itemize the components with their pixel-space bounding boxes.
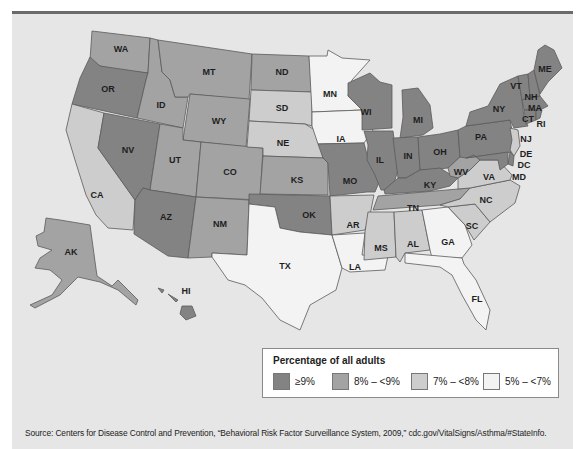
state-FL[interactable] [405, 253, 490, 330]
label-OK: OK [302, 210, 316, 220]
source-citation: Source: Centers for Disease Control and … [25, 428, 547, 438]
label-NJ: NJ [520, 134, 532, 144]
label-PA: PA [475, 132, 487, 142]
state-AZ[interactable] [134, 188, 196, 258]
label-HI: HI [182, 286, 191, 296]
label-NH: NH [525, 92, 538, 102]
label-WY: WY [212, 116, 227, 126]
legend-item-8-9: 8% – <9% [332, 373, 400, 390]
state-NJ[interactable] [510, 128, 520, 156]
legend-item-9plus: ≥9% [273, 373, 315, 390]
label-NM: NM [213, 219, 227, 229]
label-FL: FL [472, 294, 483, 304]
legend-swatch [483, 373, 500, 390]
state-AK[interactable] [30, 218, 138, 308]
legend-item-5-7: 5% – <7% [483, 373, 551, 390]
legend: Percentage of all adults ≥9% 8% – <9% 7%… [262, 348, 559, 398]
label-TN: TN [407, 203, 419, 213]
legend-item-7-8: 7% – <8% [411, 373, 479, 390]
label-CO: CO [223, 167, 237, 177]
legend-swatch [332, 373, 349, 390]
label-MA: MA [528, 103, 542, 113]
legend-label: 7% – <8% [433, 376, 479, 387]
label-MD: MD [512, 172, 526, 182]
label-ID: ID [157, 100, 167, 110]
label-SC: SC [466, 221, 479, 231]
label-DC: DC [518, 160, 531, 170]
label-OR: OR [101, 84, 115, 94]
label-IL: IL [376, 155, 385, 165]
label-MS: MS [374, 243, 388, 253]
label-VA: VA [483, 172, 495, 182]
label-AR: AR [347, 220, 360, 230]
label-WA: WA [114, 44, 129, 54]
label-WI: WI [361, 107, 372, 117]
label-SD: SD [276, 103, 289, 113]
label-KY: KY [424, 180, 437, 190]
legend-label: 5% – <7% [505, 376, 551, 387]
label-RI: RI [537, 119, 546, 129]
label-ND: ND [276, 67, 289, 77]
label-LA: LA [349, 262, 361, 272]
legend-swatch [411, 373, 428, 390]
label-AZ: AZ [160, 212, 172, 222]
label-MI: MI [413, 115, 423, 125]
label-UT: UT [169, 155, 181, 165]
label-VT: VT [510, 81, 522, 91]
label-MT: MT [203, 67, 216, 77]
label-MN: MN [323, 89, 337, 99]
state-MI[interactable] [400, 88, 433, 138]
label-DE: DE [520, 149, 533, 159]
legend-label: 8% – <9% [354, 376, 400, 387]
label-OH: OH [433, 147, 447, 157]
label-AK: AK [65, 247, 78, 257]
label-WV: WV [454, 167, 469, 177]
label-NC: NC [480, 195, 493, 205]
label-GA: GA [441, 237, 455, 247]
label-AL: AL [407, 239, 419, 249]
label-ME: ME [538, 64, 552, 74]
legend-title: Percentage of all adults [273, 355, 385, 366]
label-MO: MO [343, 176, 358, 186]
label-CT: CT [522, 114, 534, 124]
legend-label: ≥9% [295, 376, 315, 387]
label-IA: IA [337, 134, 347, 144]
label-NV: NV [122, 145, 135, 155]
label-NY: NY [493, 104, 506, 114]
label-IN: IN [404, 151, 413, 161]
label-TX: TX [279, 261, 291, 271]
label-CA: CA [91, 190, 104, 200]
legend-swatch [273, 373, 290, 390]
label-KS: KS [291, 175, 304, 185]
label-NE: NE [277, 138, 290, 148]
